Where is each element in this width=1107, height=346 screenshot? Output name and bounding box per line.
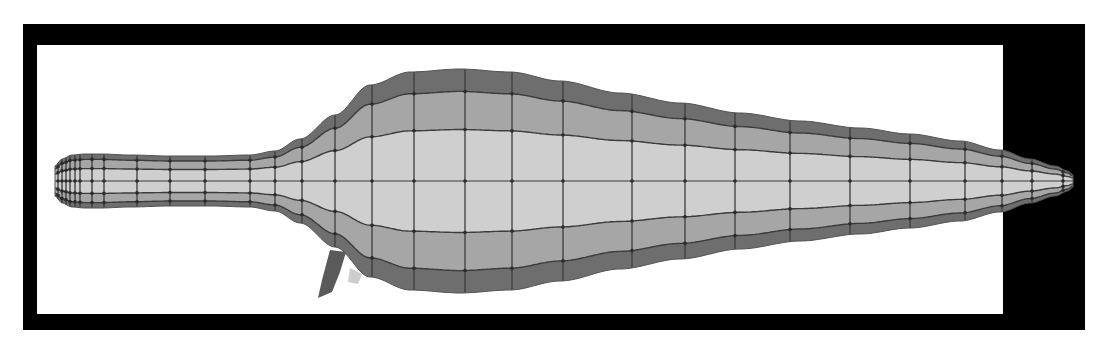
- mesh-vertex: [630, 249, 634, 253]
- mesh-vertex: [90, 179, 94, 183]
- mesh-vertex: [683, 117, 687, 121]
- mesh-vertex: [733, 148, 737, 152]
- mesh-vertex: [90, 158, 94, 162]
- mesh-vertex: [60, 179, 64, 183]
- mesh-vertex: [963, 148, 967, 152]
- mesh-vertex: [78, 192, 82, 196]
- mesh-vertex: [68, 200, 72, 204]
- mesh-vertex: [412, 92, 416, 96]
- mesh-vertex: [412, 179, 416, 183]
- mesh-vertex: [248, 167, 252, 171]
- mesh-vertex: [412, 266, 416, 270]
- mesh-vertex: [848, 222, 852, 226]
- mesh-vertex: [73, 191, 77, 195]
- mesh-vertex: [203, 179, 207, 183]
- mesh-vertex: [64, 190, 68, 194]
- mesh-vertex: [273, 155, 277, 159]
- mesh-vertex: [78, 167, 82, 171]
- mesh-vertex: [510, 92, 514, 96]
- mesh-vertex: [300, 179, 304, 183]
- mesh-vertex: [848, 136, 852, 140]
- mesh-vertex: [963, 197, 967, 201]
- mesh-vertex: [908, 217, 912, 221]
- mesh-vertex: [510, 229, 514, 233]
- mesh-vertex: [102, 167, 106, 171]
- mesh-vertex: [248, 191, 252, 195]
- mesh-vertex: [273, 193, 277, 197]
- mesh-vertex: [370, 135, 374, 139]
- mesh-vertex: [963, 161, 967, 165]
- mesh-vertex: [60, 189, 64, 193]
- mesh-vertex: [561, 99, 565, 103]
- mesh-vertex: [1000, 193, 1004, 197]
- mesh-vertex: [561, 225, 565, 229]
- mesh-vertex: [510, 129, 514, 133]
- mesh-vertex: [1000, 165, 1004, 169]
- mesh-vertex: [683, 215, 687, 219]
- mesh-vertex: [370, 102, 374, 106]
- mesh-vertex: [273, 165, 277, 169]
- mesh-vertex: [273, 179, 277, 183]
- mesh-vertex: [68, 179, 72, 183]
- mesh-vertex: [848, 204, 852, 208]
- mesh-vertex: [463, 269, 467, 273]
- mesh-vertex: [73, 179, 77, 183]
- mesh-vertex: [463, 231, 467, 235]
- mesh-vertex: [90, 167, 94, 171]
- mesh-vertex: [733, 211, 737, 215]
- mesh-vertex: [60, 169, 64, 173]
- mesh-vertex: [248, 200, 252, 204]
- mesh-vertex: [333, 232, 337, 236]
- mesh-vertex: [248, 179, 252, 183]
- mesh-vertex: [135, 159, 139, 163]
- mesh-vertex: [60, 162, 64, 166]
- mesh-vertex: [683, 241, 687, 245]
- mesh-vertex: [203, 168, 207, 172]
- mesh-vertex: [630, 110, 634, 114]
- mesh-vertex: [64, 161, 68, 165]
- mesh-vertex: [135, 179, 139, 183]
- mesh-vertex: [1000, 204, 1004, 208]
- mesh-vertex: [90, 201, 94, 205]
- mesh-vertex: [168, 179, 172, 183]
- mesh-vertex: [908, 179, 912, 183]
- mesh-vertex: [848, 179, 852, 183]
- mesh-vertex: [60, 197, 64, 201]
- mesh-vertex: [90, 192, 94, 196]
- mesh-vertex: [788, 151, 792, 155]
- mesh-vertex: [64, 179, 68, 183]
- mesh-vertex: [788, 179, 792, 183]
- mesh-vertex: [1061, 174, 1065, 178]
- mesh-vertex: [102, 192, 106, 196]
- mesh-figure: [0, 0, 1107, 346]
- mesh-vertex: [908, 158, 912, 162]
- mesh-vertex: [733, 179, 737, 183]
- mesh-vertex: [630, 219, 634, 223]
- mesh-vertex: [630, 139, 634, 143]
- mesh-vertex: [561, 133, 565, 137]
- mesh-vertex: [73, 158, 77, 162]
- mesh-vertex: [102, 201, 106, 205]
- mesh-vertex: [64, 168, 68, 172]
- mesh-vertex: [463, 90, 467, 94]
- mesh-vertex: [300, 199, 304, 203]
- mesh-vertex: [135, 167, 139, 171]
- mesh-vertex: [73, 200, 77, 204]
- mesh-vertex: [683, 179, 687, 183]
- mesh-vertex: [733, 125, 737, 129]
- mesh-vertex: [908, 142, 912, 146]
- mesh-vertex: [683, 143, 687, 147]
- mesh-vertex: [78, 201, 82, 205]
- mesh-vertex: [73, 167, 77, 171]
- mesh-vertex: [1030, 162, 1034, 166]
- mesh-vertex: [78, 179, 82, 183]
- mesh-vertex: [370, 223, 374, 227]
- mesh-vertex: [963, 211, 967, 215]
- mesh-vertex: [203, 199, 207, 203]
- mesh-vertex: [788, 207, 792, 211]
- mesh-vertex: [1000, 155, 1004, 159]
- mesh-vertex: [78, 158, 82, 162]
- mesh-vertex: [300, 213, 304, 217]
- mesh-vertex: [273, 203, 277, 207]
- mesh-vertex: [333, 149, 337, 153]
